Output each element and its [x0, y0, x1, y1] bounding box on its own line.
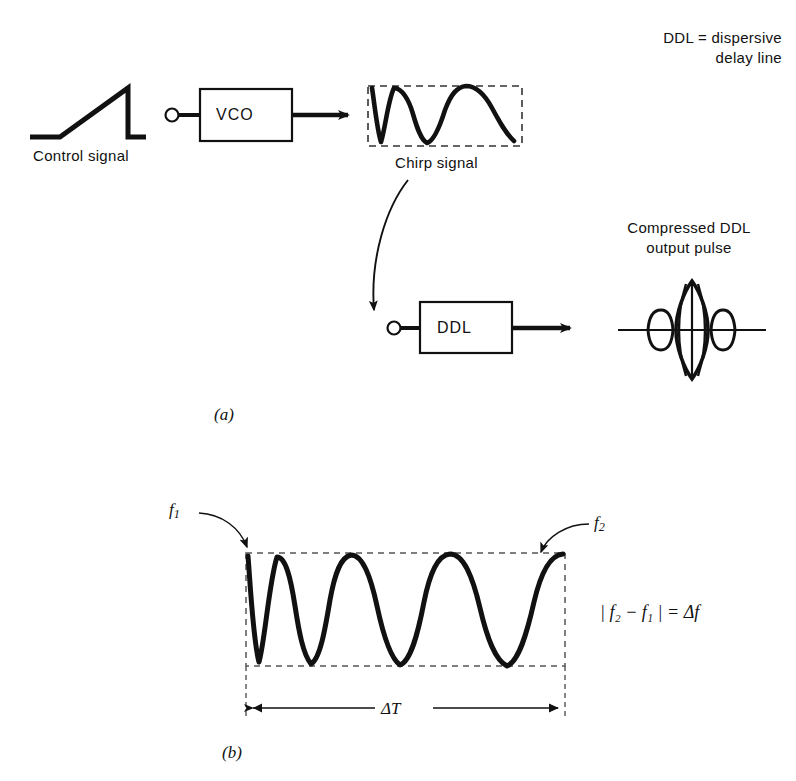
f2-label: f2: [594, 513, 605, 535]
f1-label: f1: [169, 500, 180, 522]
chirp-signal-waveform: [372, 86, 514, 143]
caption-part-a: (a): [214, 405, 234, 425]
f2-pointer-arrow: [541, 524, 589, 552]
chirp-to-ddl-arrow: [373, 180, 408, 310]
figure-root: DDL = dispersive delay line Control sign…: [0, 0, 796, 781]
vco-input-terminal: [166, 109, 201, 122]
ddl-legend-text: DDL = dispersive delay line: [586, 28, 782, 69]
control-signal-label: Control signal: [33, 146, 129, 166]
ddl-input-terminal: [388, 322, 421, 335]
f1-subscript: 1: [174, 507, 180, 521]
control-signal-waveform: [30, 88, 146, 137]
chirp-signal-label: Chirp signal: [395, 153, 478, 173]
f2-subscript: 2: [599, 520, 605, 534]
compressed-output-label: Compressed DDL output pulse: [605, 218, 773, 259]
caption-part-b: (b): [222, 743, 242, 763]
f1-pointer-arrow: [199, 513, 247, 547]
figure-canvas: [0, 0, 796, 781]
delta-t-label: ΔT: [381, 699, 400, 719]
delta-t-dimension: [246, 666, 565, 717]
vco-block-label: VCO: [216, 104, 254, 126]
ddl-block-label: DDL: [437, 317, 472, 339]
chirp-waveform-b: [248, 554, 563, 666]
compressed-output-pulse-waveform: [618, 281, 766, 379]
frequency-sweep-equation: | f₂ − f₁ | = Δf: [600, 602, 699, 623]
